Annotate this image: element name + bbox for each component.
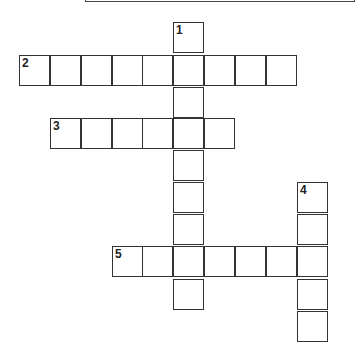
clue-number: 1 [176, 24, 183, 36]
crossword-cell[interactable] [142, 246, 173, 277]
crossword-cell[interactable] [173, 182, 204, 213]
crossword-cell-5[interactable]: 5 [112, 246, 143, 277]
crossword-cell[interactable] [173, 118, 204, 149]
crossword-cell[interactable] [81, 55, 112, 86]
clue-number: 5 [115, 248, 122, 260]
clue-number: 3 [53, 120, 60, 132]
clue-number: 2 [22, 57, 29, 69]
crossword-cell-3[interactable]: 3 [50, 118, 81, 149]
crossword-cell[interactable] [297, 311, 328, 342]
crossword-cell[interactable] [173, 87, 204, 118]
crossword-cell-1[interactable]: 1 [173, 22, 204, 53]
crossword-cell[interactable] [204, 118, 235, 149]
crossword-cell[interactable] [235, 246, 266, 277]
crossword-cell[interactable] [297, 214, 328, 245]
crossword-cell[interactable] [173, 214, 204, 245]
crossword-cell[interactable] [297, 246, 328, 277]
crossword-cell[interactable] [173, 150, 204, 181]
crossword-cell-2[interactable]: 2 [19, 55, 50, 86]
crossword-cell[interactable] [50, 55, 81, 86]
crossword-cell-4[interactable]: 4 [297, 182, 328, 213]
crossword-cell[interactable] [204, 246, 235, 277]
crossword-cell[interactable] [142, 55, 173, 86]
crossword-cell[interactable] [235, 55, 266, 86]
clue-number: 4 [300, 184, 307, 196]
crossword-cell[interactable] [81, 118, 112, 149]
crossword-cell[interactable] [173, 279, 204, 310]
crossword-cell[interactable] [297, 279, 328, 310]
crossword-cell[interactable] [142, 118, 173, 149]
crossword-cell[interactable] [173, 246, 204, 277]
crossword-cell[interactable] [204, 55, 235, 86]
crossword-cell[interactable] [266, 55, 297, 86]
crossword-cell[interactable] [173, 55, 204, 86]
crossword-cell[interactable] [112, 118, 143, 149]
crossword-cell[interactable] [266, 246, 297, 277]
crossword-cell[interactable] [112, 55, 143, 86]
